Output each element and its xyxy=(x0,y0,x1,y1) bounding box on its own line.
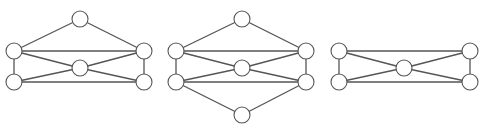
graph-1 xyxy=(6,11,152,90)
graph-1-edge-upper-left-center xyxy=(14,51,80,68)
graph-diagram-canvas xyxy=(0,0,484,135)
graph-3-edge-lower-left-center xyxy=(339,68,404,82)
graph-1-node-upper-right xyxy=(136,43,152,59)
graph-3 xyxy=(331,43,478,90)
graph-2-nodes xyxy=(168,11,314,123)
graph-2-node-lower-right xyxy=(298,74,314,90)
graph-1-edge-lower-right-center xyxy=(80,68,144,82)
graph-1-node-upper-left xyxy=(6,43,22,59)
graph-2-edge-lower-right-center xyxy=(242,68,306,82)
graph-3-nodes xyxy=(331,43,478,90)
graph-2-node-center xyxy=(234,60,250,76)
graph-2-edge-lower-right-bottom xyxy=(242,82,306,115)
graph-1-node-lower-left xyxy=(6,74,22,90)
graph-1-edge-top-upper-right xyxy=(80,19,144,51)
graph-2-edge-lower-left-center xyxy=(176,68,242,82)
graph-2-node-upper-right xyxy=(298,43,314,59)
graph-1-edge-top-upper-left xyxy=(14,19,80,51)
graph-3-node-upper-right xyxy=(462,43,478,59)
graph-2-node-upper-left xyxy=(168,43,184,59)
graph-1-node-center xyxy=(72,60,88,76)
graph-3-edge-upper-left-center xyxy=(339,51,404,68)
graph-2-edge-lower-left-bottom xyxy=(176,82,242,115)
graph-3-node-upper-left xyxy=(331,43,347,59)
graph-3-node-lower-right xyxy=(462,74,478,90)
graph-1-node-top xyxy=(72,11,88,27)
graph-2-edge-top-upper-right xyxy=(242,19,306,51)
graph-2-edge-upper-left-center xyxy=(176,51,242,68)
graph-2 xyxy=(168,11,314,123)
graph-2-node-top xyxy=(234,11,250,27)
graph-2-node-bottom xyxy=(234,107,250,123)
graph-2-edge-top-upper-left xyxy=(176,19,242,51)
graph-1-node-lower-right xyxy=(136,74,152,90)
graph-3-edge-upper-right-center xyxy=(404,51,470,68)
graph-1-edge-upper-right-center xyxy=(80,51,144,68)
graph-2-node-lower-left xyxy=(168,74,184,90)
graph-2-edge-upper-right-center xyxy=(242,51,306,68)
graph-3-node-lower-left xyxy=(331,74,347,90)
graph-3-node-center xyxy=(396,60,412,76)
graph-3-edge-lower-right-center xyxy=(404,68,470,82)
graph-1-edge-lower-left-center xyxy=(14,68,80,82)
